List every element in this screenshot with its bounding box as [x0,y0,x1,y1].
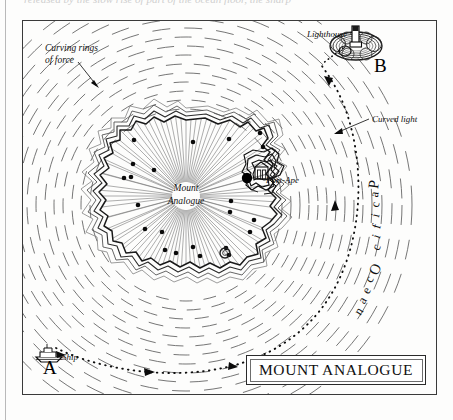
label-ship: Ship [62,352,78,362]
map-title-inner-rule: MOUNT ANALOGUE [250,359,423,382]
lighthouse-pointer [322,48,343,64]
leader-lines [78,62,369,133]
leader-arrowheads [91,80,343,134]
label-curving-rings-of-force: Curving rings of force [45,42,98,66]
point-b-label: B [374,55,387,77]
map-title-box: MOUNT ANALOGUE [246,355,426,385]
label-lighthouse: Lighthouse [307,29,347,39]
label-mount-analogue-center: Mount Analogue [150,182,222,207]
label-curved-light: Curved light [372,114,417,124]
label-port-ape: Port-Ape [266,175,299,185]
map-title-text: MOUNT ANALOGUE [259,361,413,379]
map-page: released by the slow rise of part of the… [0,0,453,420]
point-a-label: A [43,357,57,379]
